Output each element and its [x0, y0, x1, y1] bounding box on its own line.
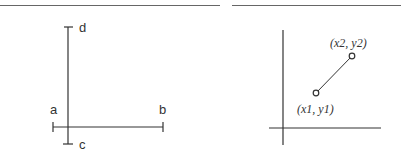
left-diagram [53, 27, 163, 144]
label-b: b [159, 102, 166, 117]
point-p2 [349, 53, 355, 59]
label-p1: (x1, y1) [297, 102, 334, 116]
segment-p1-p2 [316, 56, 352, 93]
label-a: a [50, 102, 58, 117]
point-p1 [313, 90, 319, 96]
label-c: c [79, 137, 86, 152]
figure: d a b c (x2, y2) (x1, y1) [0, 0, 401, 163]
label-d: d [79, 20, 86, 35]
label-p2: (x2, y2) [330, 36, 367, 50]
